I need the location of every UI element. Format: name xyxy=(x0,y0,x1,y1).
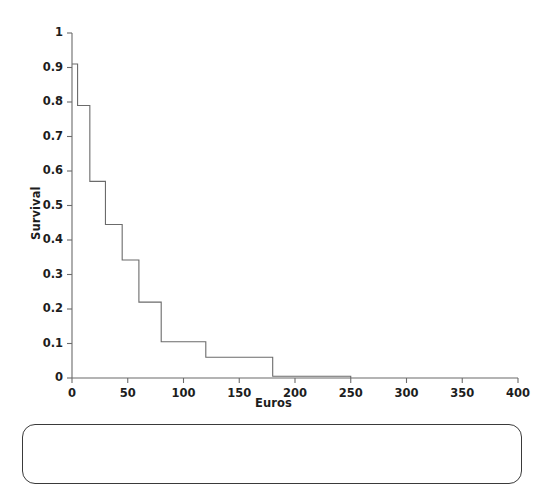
y-tick-marks xyxy=(67,33,72,378)
y-tick-label: 0.7 xyxy=(29,129,63,143)
y-tick-label: 0.9 xyxy=(29,60,63,74)
axes-group xyxy=(72,33,518,378)
y-axis-label: Survival xyxy=(29,186,43,240)
caption-box xyxy=(22,424,522,484)
x-tick-marks xyxy=(72,378,518,383)
y-tick-label: 0 xyxy=(29,370,63,384)
y-tick-label: 0.6 xyxy=(29,163,63,177)
y-tick-label: 0.3 xyxy=(29,267,63,281)
survival-step-curve xyxy=(72,64,351,378)
y-tick-label: 0.8 xyxy=(29,94,63,108)
y-tick-label: 0.2 xyxy=(29,301,63,315)
x-axis-label: Euros xyxy=(0,396,547,410)
y-tick-label: 1 xyxy=(29,25,63,39)
y-tick-label: 0.1 xyxy=(29,336,63,350)
